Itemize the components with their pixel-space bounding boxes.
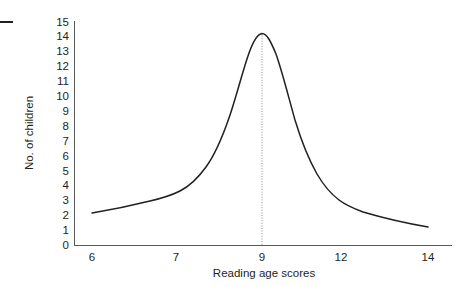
y-tick-label: 8 [63,120,69,132]
y-tick-label: 2 [63,209,69,221]
y-axis-title: No. of children [23,96,35,170]
y-tick-label: 14 [56,30,69,42]
y-tick-label: 7 [63,135,69,147]
y-tick-label: 6 [63,150,69,162]
distribution-curve [92,34,428,228]
y-tick-label: 1 [63,224,69,236]
y-tick-label: 4 [63,179,70,191]
x-tick-label: 12 [335,251,348,263]
y-tick-label: 0 [63,239,69,251]
y-tick-label: 5 [63,165,69,177]
y-tick-label: 3 [63,194,69,206]
x-tick-label: 7 [173,251,179,263]
y-tick-label: 11 [57,75,69,87]
x-axis-tick-labels: 6 7 9 12 14 [89,251,435,263]
x-tick-label: 14 [422,251,435,263]
y-tick-label: 9 [63,105,69,117]
y-tick-label: 15 [56,16,69,28]
y-tick-label: 10 [56,90,69,102]
y-axis-tick-labels: 15 14 13 12 11 10 9 8 7 6 5 4 3 2 1 0 [56,16,69,252]
x-tick-label: 9 [259,251,265,263]
x-axis-title: Reading age scores [213,267,316,279]
distribution-chart-svg: No. of children 15 14 13 12 11 10 9 8 7 … [0,0,470,287]
y-tick-label: 12 [56,60,69,72]
y-tick-label: 13 [56,45,69,57]
x-tick-label: 6 [89,251,95,263]
chart-figure: No. of children 15 14 13 12 11 10 9 8 7 … [0,0,470,287]
